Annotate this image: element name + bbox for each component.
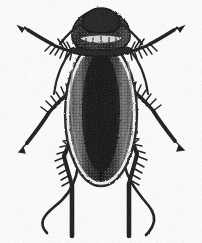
- cockroach-illustration-svg: [0, 0, 202, 243]
- illustration-figure: Black and white engraved illustration of…: [0, 0, 202, 243]
- tegmina: [69, 46, 133, 182]
